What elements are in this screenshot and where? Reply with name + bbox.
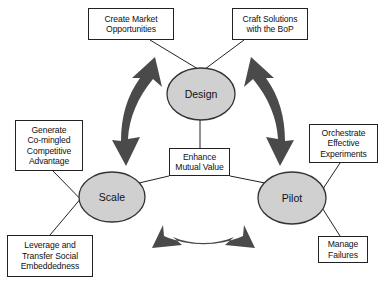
callout-orchestrate-effective-experiments[interactable]: Orchestrate Effective Experiments xyxy=(309,124,378,163)
center-box-enhance-mutual-value[interactable]: Enhance Mutual Value xyxy=(169,148,230,176)
callout-craft-solutions-with-the-bop[interactable]: Craft Solutions with the BoP xyxy=(232,8,308,40)
callout-create-market-opportunities[interactable]: Create Market Opportunities xyxy=(88,8,174,40)
node-design-label: Design xyxy=(185,88,218,100)
arrow-scale-pilot xyxy=(152,225,255,248)
connector-center-to-scale xyxy=(139,176,169,183)
node-design[interactable]: Design xyxy=(167,68,235,120)
connector-center-to-pilot xyxy=(230,176,265,183)
bop-venture-diagram: Design Scale Pilot Create Market Opportu… xyxy=(0,0,387,283)
leader-line-craft-solutions-with-the-bop xyxy=(205,40,244,69)
callout-leverage-and-transfer-social-embeddedness[interactable]: Leverage and Transfer Social Embeddednes… xyxy=(7,235,93,277)
arrow-design-pilot xyxy=(244,57,294,166)
arrow-scale-design xyxy=(112,57,162,166)
node-pilot[interactable]: Pilot xyxy=(258,172,326,224)
callout-manage-failures[interactable]: Manage Failures xyxy=(318,236,368,263)
leader-line-create-market-opportunities xyxy=(150,40,198,69)
node-pilot-label: Pilot xyxy=(282,192,303,204)
node-scale-label: Scale xyxy=(99,191,125,203)
node-scale[interactable]: Scale xyxy=(79,172,145,222)
callout-generate-co-mingled-competitive-advantage[interactable]: Generate Co-mingled Competitive Advantag… xyxy=(15,120,83,171)
